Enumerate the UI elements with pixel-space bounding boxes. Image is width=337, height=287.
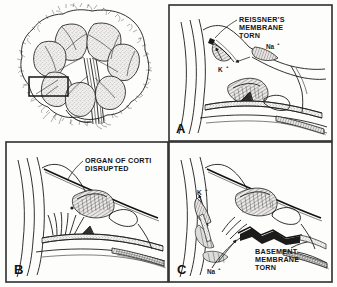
panel-b-drawing: [17, 157, 166, 277]
panel-a-ion-k: K +: [218, 64, 229, 73]
panel-b-callout: ORGAN OF CORTI DISRUPTED: [68, 156, 152, 179]
panel-a-ion-na-label: Na: [266, 43, 275, 50]
panel-a-ion-k-charge: +: [226, 64, 229, 69]
panel-a-letter: A: [176, 121, 186, 136]
panel-c-ion-k-label: K: [197, 189, 202, 196]
panel-b-letter: B: [14, 262, 23, 277]
panel-a-callout-line-3: TORN: [239, 31, 260, 40]
panel-c-ion-na-label: Na: [207, 268, 216, 275]
panel-c-ion-na-charge: +: [218, 266, 221, 271]
panel-a-ion-k-label: K: [218, 66, 223, 73]
panel-a-ion-na: Na +: [266, 41, 280, 50]
panel-c-callout: BASEMENT MEMBRANE TORN: [255, 247, 299, 272]
panel-a-callout: REISSNER'S MEMBRANE TORN: [215, 15, 285, 40]
panel-a-ion-na-charge: +: [277, 41, 280, 46]
panel-c-callout-line-3: TORN: [255, 263, 276, 272]
panel-c-ion-na: Na +: [207, 266, 221, 275]
panel-b-callout-line-2: DISRUPTED: [85, 164, 129, 173]
panel-c-letter: C: [177, 262, 187, 277]
figure-canvas: REISSNER'S MEMBRANE TORN K + Na + A ORGA…: [0, 0, 337, 287]
panel-c-ion-k-charge: +: [205, 187, 208, 192]
cochlea-trauma-figure: REISSNER'S MEMBRANE TORN K + Na + A ORGA…: [0, 0, 337, 287]
cochlea-overview-drawing: [17, 3, 152, 129]
